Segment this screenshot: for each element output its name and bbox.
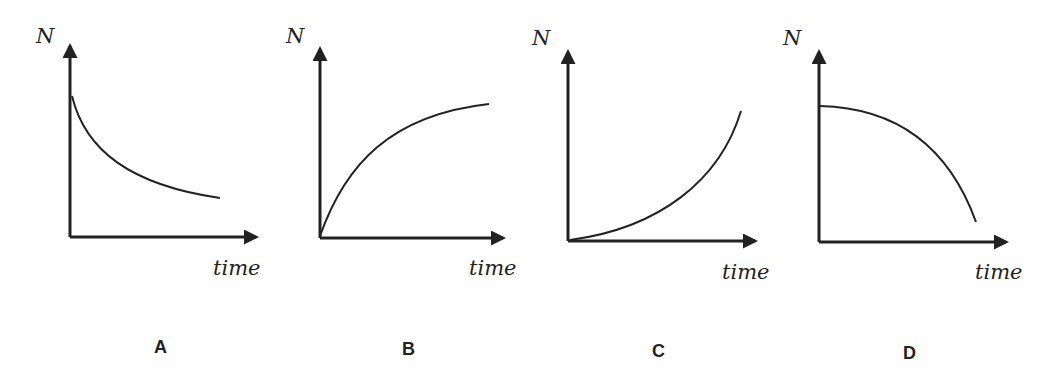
y-axis-label-b: N — [286, 26, 304, 47]
x-axis-label-c: time — [722, 262, 770, 283]
graph-c — [568, 52, 755, 241]
y-axis-label-a: N — [36, 26, 54, 47]
graph-letter-d: D — [903, 344, 916, 362]
x-axis-label-d: time — [975, 262, 1023, 283]
graph-b — [320, 49, 503, 238]
x-axis-label-b: time — [469, 258, 517, 279]
graph-letter-c: C — [652, 342, 665, 360]
x-axis-label-a: time — [213, 258, 261, 279]
y-axis-label-c: N — [532, 28, 550, 49]
graph-d — [819, 52, 1006, 242]
curve-decay — [72, 96, 220, 198]
graphs-canvas — [0, 0, 1051, 385]
curve-saturating-growth — [320, 104, 489, 236]
graph-a — [70, 46, 256, 237]
curve-accelerating-decline — [820, 106, 976, 222]
curve-accelerating-growth — [570, 111, 741, 240]
graph-letter-b: B — [402, 340, 415, 358]
graph-letter-a: A — [154, 338, 167, 356]
y-axis-label-d: N — [783, 28, 801, 49]
